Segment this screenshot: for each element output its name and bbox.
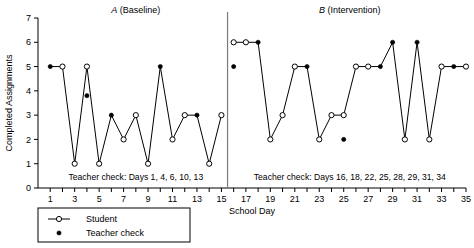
student-data-marker [207,161,212,166]
x-axis-tick-label: 11 [168,194,177,204]
teacher-check-marker [232,64,236,68]
phase-letter-A: A [110,5,117,15]
x-axis-tick-label: 13 [192,194,202,204]
x-axis-tick-label: 17 [241,194,251,204]
student-data-marker [97,161,102,166]
student-data-marker [231,40,236,45]
x-axis-tick-label: 3 [72,194,77,204]
teacher-check-marker [342,137,346,141]
student-data-marker [427,137,432,142]
student-data-marker [145,161,150,166]
teacher-check-marker [415,40,419,44]
x-axis-tick-label: 7 [121,194,126,204]
y-axis-tick-label: 4 [26,86,31,96]
x-axis-tick-label: 35 [461,194,471,204]
teacher-check-marker [195,113,199,117]
student-data-marker [329,113,334,118]
student-data-marker [72,161,77,166]
student-data-marker [170,137,175,142]
student-series-line-B [234,42,466,139]
teacher-check-marker [378,64,382,68]
y-axis-tick-label: 2 [26,135,31,145]
student-data-marker [182,113,187,118]
x-axis-tick-label: 1 [48,194,53,204]
student-data-marker [439,64,444,69]
student-data-marker [366,64,371,69]
student-data-marker [280,113,285,118]
x-axis-tick-label: 31 [412,194,422,204]
x-axis-title: School Day [229,206,276,216]
legend-teacher-marker [57,231,61,235]
teacher-check-marker [48,64,52,68]
x-axis-tick-label: 5 [97,194,102,204]
phase-group-A: A (Baseline)Teacher check: Days 1, 4, 6,… [48,5,224,182]
teacher-check-marker [305,64,309,68]
teacher-check-marker [158,64,162,68]
student-data-marker [292,64,297,69]
teacher-check-marker [391,40,395,44]
y-axis-tick-label: 0 [26,183,31,193]
student-data-marker [317,137,322,142]
student-data-marker [268,137,273,142]
chart-figure: 012345671357911131517192123252729313335S… [0,0,474,248]
teacher-check-marker [256,40,260,44]
legend-label-teacher-check: Teacher check [86,228,145,238]
y-axis-tick-label: 1 [26,159,31,169]
legend-label-student: Student [86,214,118,224]
phase-group-B: B (Intervention)Teacher check: Days 16, … [231,5,469,182]
phase-title-B: B (Intervention) [319,5,381,15]
phase-name-B: (Intervention) [325,5,381,15]
teacher-check-marker [452,64,456,68]
single-case-design-line-chart: 012345671357911131517192123252729313335S… [0,0,474,248]
phase-annotation-A: Teacher check: Days 1, 4, 6, 10, 13 [68,172,203,182]
student-data-marker [121,137,126,142]
student-data-marker [341,113,346,118]
y-axis-tick-label: 7 [26,13,31,23]
legend-student-marker [56,216,61,221]
student-data-marker [60,64,65,69]
y-axis-title: Completed Assignments [4,54,14,152]
x-axis-tick-label: 23 [314,194,324,204]
x-axis-tick-label: 27 [363,194,373,204]
student-data-marker [243,40,248,45]
phase-name-A: (Baseline) [117,5,160,15]
x-axis-tick-label: 21 [290,194,300,204]
x-axis-tick-label: 33 [437,194,447,204]
x-axis-tick-label: 9 [146,194,151,204]
teacher-check-marker [109,113,113,117]
x-axis-tick-label: 19 [265,194,275,204]
chart-legend: StudentTeacher check [38,208,190,242]
y-axis-tick-label: 3 [26,110,31,120]
student-data-marker [219,113,224,118]
x-axis-tick-label: 25 [339,194,349,204]
student-data-marker [133,113,138,118]
x-axis-tick-label: 29 [388,194,398,204]
student-data-marker [402,137,407,142]
phase-annotation-B: Teacher check: Days 16, 18, 22, 25, 28, … [254,172,446,182]
student-data-marker [463,64,468,69]
x-axis-tick-label: 15 [216,194,226,204]
student-data-marker [84,64,89,69]
phase-title-A: A (Baseline) [110,5,160,15]
teacher-check-marker [85,94,89,98]
student-data-marker [353,64,358,69]
y-axis-tick-label: 6 [26,37,31,47]
y-axis-tick-label: 5 [26,62,31,72]
